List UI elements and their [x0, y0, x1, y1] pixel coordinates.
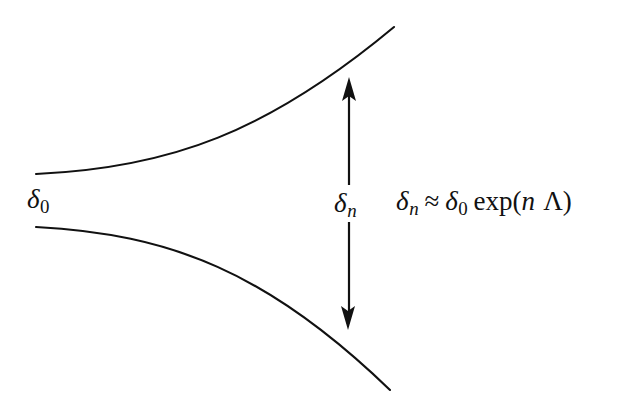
equation-arg-exponent: Λ — [543, 186, 563, 216]
equation-arg-index: n — [522, 186, 536, 216]
equation-lhs-symbol: δ — [396, 186, 409, 216]
delta-n-subscript: n — [347, 200, 357, 221]
upper-trajectory-curve — [36, 27, 394, 174]
delta-initial-subscript: 0 — [40, 196, 50, 217]
delta-initial-symbol: δ — [27, 184, 40, 214]
equation-close-paren: ) — [563, 186, 572, 216]
equation-exponential-divergence: δn≈δ0exp(nΛ) — [396, 188, 572, 219]
label-delta-after-n: δn — [334, 190, 357, 221]
equation-open-paren: ( — [513, 186, 522, 216]
delta-n-symbol: δ — [334, 188, 347, 218]
label-delta-initial: δ0 — [27, 186, 49, 217]
equation-relation-sign: ≈ — [419, 186, 446, 216]
equation-rhs-subscript: 0 — [458, 198, 468, 219]
lower-trajectory-curve — [36, 227, 390, 390]
figure-canvas: δ0 δn δn≈δ0exp(nΛ) — [0, 0, 640, 409]
equation-function-name: exp — [474, 186, 513, 216]
equation-rhs-symbol: δ — [445, 186, 458, 216]
equation-lhs-subscript: n — [409, 198, 419, 219]
